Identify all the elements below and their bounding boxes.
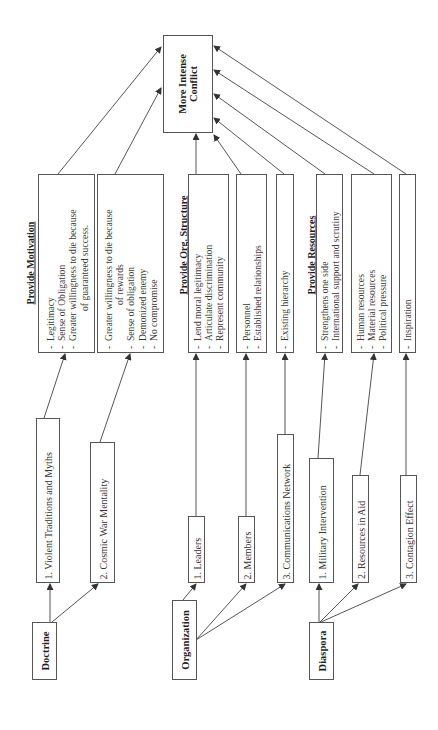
effect-item: - Lend moral legitimacy xyxy=(192,179,203,349)
root-label: Diaspora xyxy=(316,631,327,672)
effect-item: - Sense of Obligation xyxy=(55,179,66,349)
effect-item: - Sense of obligation xyxy=(125,179,136,349)
diagram-canvas: More Intense Conflict Provide Motivation… xyxy=(0,0,438,730)
effect-item: - Greater willingness to die because xyxy=(67,179,78,349)
effects-box-violent-traditions: - Legitimacy - Sense of Obligation - Gre… xyxy=(38,174,95,353)
effect-item: - Demonized enemy xyxy=(136,179,147,349)
root-box-organization: Organization xyxy=(172,600,197,680)
effects-box-resources-in-aid: - Human resources - Material resources -… xyxy=(351,174,392,353)
item-box-members: 2. Members xyxy=(238,516,255,583)
item-box-violent-traditions: 1. Violent Traditions and Myths xyxy=(36,418,60,583)
item-box-communications-network: 3. Communications Network xyxy=(277,434,294,583)
effects-list: - Inspiration xyxy=(402,179,413,349)
item-label: 1. Military Intervention xyxy=(316,462,327,579)
header-provide-resources: Provide Resources xyxy=(306,216,317,295)
item-label: 3. Contagion Effect xyxy=(403,479,414,579)
effect-item: - No compromise xyxy=(147,179,158,349)
root-label: Doctrine xyxy=(39,631,50,670)
effects-list: - Lend moral legitimacy - Articulate dis… xyxy=(192,179,226,349)
effect-item: - Greater willingness to die because xyxy=(102,179,113,349)
effect-item: - Inspiration xyxy=(402,179,413,349)
item-box-cosmic-war: 2. Cosmic War Mentality xyxy=(90,442,115,583)
item-box-military-intervention: 1. Military Intervention xyxy=(309,458,334,583)
outcome-box-more-intense-conflict: More Intense Conflict xyxy=(163,35,213,133)
connector-lines xyxy=(0,0,438,730)
effect-item: - Articulate discrimination xyxy=(203,179,214,349)
effect-item: - Existing hierarchy xyxy=(279,179,290,349)
effects-box-military-intervention: - Strengthens one side - International s… xyxy=(316,174,343,353)
effect-item-continuation: of rewards xyxy=(114,179,125,349)
item-label: 1. Violent Traditions and Myths xyxy=(43,422,54,579)
header-provide-motivation: Provide Motivation xyxy=(25,222,36,305)
effects-box-members: - Personnel - Established relationships xyxy=(236,174,267,353)
item-label: 1. Leaders xyxy=(191,520,202,579)
item-box-leaders: 1. Leaders xyxy=(188,516,205,583)
outcome-label-line2: Conflict xyxy=(188,54,199,114)
effect-item: - Personnel xyxy=(240,179,251,349)
effect-item: - Strengthens one side xyxy=(318,179,329,349)
effect-item: - International support and scrutiny xyxy=(330,179,341,349)
item-label: 2. Cosmic War Mentality xyxy=(97,446,108,579)
item-label: 2. Members xyxy=(241,520,252,579)
effects-list: - Existing hierarchy xyxy=(279,179,290,349)
effects-list: - Legitimacy - Sense of Obligation - Gre… xyxy=(44,179,89,349)
item-box-resources-in-aid: 2. Resources in Aid xyxy=(352,475,369,583)
effect-item: - Human resources xyxy=(355,179,366,349)
root-box-doctrine: Doctrine xyxy=(32,622,57,680)
effect-item-continuation: of guaranteed success. xyxy=(78,179,89,349)
effects-box-cosmic-war: - Greater willingness to die because of … xyxy=(97,174,164,353)
effect-item: - Established relationships xyxy=(252,179,263,349)
outcome-label-line1: More Intense xyxy=(177,54,188,114)
effect-item: - Political pressure xyxy=(377,179,388,349)
effects-box-communications: - Existing hierarchy xyxy=(276,174,294,353)
effects-box-contagion: - Inspiration xyxy=(399,174,416,353)
effect-item: - Material resources xyxy=(366,179,377,349)
effects-box-leaders: - Lend moral legitimacy - Articulate dis… xyxy=(188,174,229,353)
item-label: 2. Resources in Aid xyxy=(355,479,366,579)
effects-list: - Greater willingness to die because of … xyxy=(102,179,158,349)
effect-item: - Represent community xyxy=(214,179,225,349)
root-label: Organization xyxy=(179,610,190,670)
header-provide-org-structure: Provide Org. Structure xyxy=(178,196,189,295)
item-box-contagion-effect: 3. Contagion Effect xyxy=(400,475,417,583)
item-label: 3. Communications Network xyxy=(280,438,291,579)
effects-list: - Strengthens one side - International s… xyxy=(318,179,340,349)
effect-item: - Legitimacy xyxy=(44,179,55,349)
effects-list: - Personnel - Established relationships xyxy=(240,179,262,349)
effects-list: - Human resources - Material resources -… xyxy=(355,179,389,349)
root-box-diaspora: Diaspora xyxy=(309,622,334,680)
